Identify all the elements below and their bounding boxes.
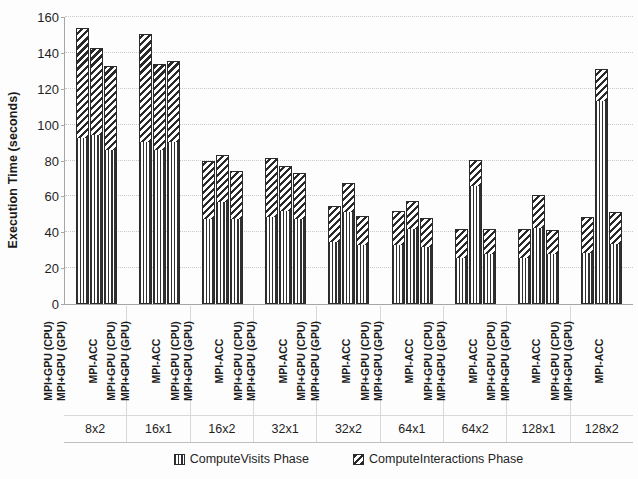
bar-group-16x2 <box>191 17 254 304</box>
y-tick-label-20: 20 <box>45 261 59 276</box>
bar-32x1-mpi-gpu-cpu-[interactable] <box>265 158 278 304</box>
bar-64x2-mpi-gpu-gpu-[interactable] <box>469 160 482 304</box>
bar-chart: Execution Time (seconds) 020406080100120… <box>0 0 638 479</box>
bar-group-64x1 <box>381 17 444 304</box>
bar-8x2-mpi-gpu-gpu-[interactable] <box>90 48 103 305</box>
segment-compute-visits <box>582 253 593 304</box>
series-label-text: MPI+GPU (CPU) <box>358 321 370 401</box>
segment-compute-visits <box>343 212 354 305</box>
category-axis: MPI+GPU (CPU)MPI+GPU (GPU)MPI-ACC8x2MPI+… <box>64 306 633 443</box>
segment-compute-interactions <box>470 161 481 186</box>
bar-128x2-mpi-acc[interactable] <box>609 212 622 304</box>
series-label-text: MPI-ACC <box>467 339 479 384</box>
x-tick-label-64x1: 64x1 <box>381 416 443 442</box>
bar-8x2-mpi-acc[interactable] <box>104 66 117 304</box>
segment-compute-visits <box>421 247 432 304</box>
bar-32x1-mpi-gpu-gpu-[interactable] <box>279 166 292 304</box>
y-tick-label-40: 40 <box>45 225 59 240</box>
series-label-text: MPI+GPU (CPU) <box>168 321 180 401</box>
bar-64x2-mpi-gpu-cpu-[interactable] <box>455 229 468 304</box>
segment-compute-visits <box>266 217 277 304</box>
series-label-text: MPI+GPU (CPU) <box>42 321 54 401</box>
segment-compute-interactions <box>357 217 368 245</box>
series-label-text: MPI+GPU (GPU) <box>562 321 574 401</box>
bar-group-8x2 <box>65 17 128 304</box>
series-label-text: MPI+GPU (GPU) <box>372 321 384 401</box>
segment-compute-visits <box>168 142 179 304</box>
segment-compute-visits <box>140 142 151 304</box>
series-label-text: MPI+GPU (CPU) <box>105 321 117 401</box>
y-tick-label-140: 140 <box>37 45 59 60</box>
bar-16x1-mpi-gpu-cpu-[interactable] <box>139 34 152 304</box>
segment-compute-interactions <box>329 207 340 242</box>
segment-compute-interactions <box>610 213 621 244</box>
series-label-text: MPI+GPU (CPU) <box>232 321 244 401</box>
legend-label-visits: ComputeVisits Phase <box>190 452 309 466</box>
series-label-text: MPI-ACC <box>277 339 289 384</box>
segment-compute-interactions <box>393 212 404 246</box>
y-tick-label-0: 0 <box>52 297 59 312</box>
bar-64x1-mpi-acc[interactable] <box>420 218 433 304</box>
category-group-128x2: MPI+GPU (CPU)MPI+GPU (GPU)MPI-ACC128x2 <box>571 306 633 442</box>
bar-16x2-mpi-acc[interactable] <box>230 171 243 304</box>
series-label-text: MPI-ACC <box>214 339 226 384</box>
y-axis-title-text: Execution Time (seconds) <box>6 91 20 248</box>
segment-compute-interactions <box>203 162 214 219</box>
segment-compute-interactions <box>421 219 432 247</box>
segment-compute-interactions <box>217 156 228 202</box>
chart-legend: ComputeVisits Phase ComputeInteractions … <box>64 452 633 466</box>
bar-64x2-mpi-acc[interactable] <box>483 229 496 304</box>
series-label-text: MPI+GPU (CPU) <box>548 321 560 401</box>
series-label-text: MPI-ACC <box>530 339 542 384</box>
bar-128x1-mpi-gpu-gpu-[interactable] <box>532 195 545 304</box>
series-label-mpi-gpu-cpu-: MPI+GPU (CPU) <box>391 309 404 413</box>
segment-compute-visits <box>407 229 418 304</box>
bar-32x1-mpi-acc[interactable] <box>293 173 306 304</box>
bar-32x2-mpi-gpu-gpu-[interactable] <box>342 183 355 304</box>
series-label-text: MPI+GPU (CPU) <box>422 321 434 401</box>
segment-compute-interactions <box>407 202 418 230</box>
segment-compute-visits <box>456 258 467 304</box>
bar-128x1-mpi-gpu-cpu-[interactable] <box>518 229 531 304</box>
series-label-mpi-gpu-cpu-: MPI+GPU (CPU) <box>265 309 278 413</box>
category-group-8x2: MPI+GPU (CPU)MPI+GPU (GPU)MPI-ACC8x2 <box>64 306 127 442</box>
bar-16x1-mpi-acc[interactable] <box>167 61 180 304</box>
segment-compute-interactions <box>168 62 179 142</box>
segment-compute-interactions <box>154 65 165 151</box>
y-tick-label-160: 160 <box>37 10 59 25</box>
bar-128x2-mpi-gpu-gpu-[interactable] <box>595 69 608 304</box>
segment-compute-interactions <box>519 230 530 258</box>
series-label-mpi-gpu-cpu-: MPI+GPU (CPU) <box>455 309 468 413</box>
series-label-mpi-gpu-cpu-: MPI+GPU (CPU) <box>581 309 594 413</box>
bar-8x2-mpi-gpu-cpu-[interactable] <box>76 28 89 304</box>
series-labels: MPI+GPU (CPU)MPI+GPU (GPU)MPI-ACC <box>444 306 506 416</box>
segment-compute-interactions <box>533 196 544 229</box>
bar-group-32x1 <box>254 17 317 304</box>
bar-64x1-mpi-gpu-cpu-[interactable] <box>392 211 405 304</box>
x-tick-label-32x2: 32x2 <box>317 416 379 442</box>
x-tick-label-32x1: 32x1 <box>254 416 316 442</box>
bar-32x2-mpi-acc[interactable] <box>356 216 369 304</box>
series-label-text: MPI+GPU (CPU) <box>295 321 307 401</box>
segment-compute-interactions <box>596 70 607 101</box>
series-label-text: MPI-ACC <box>87 339 99 384</box>
series-label-mpi-gpu-cpu-: MPI+GPU (CPU) <box>138 309 151 413</box>
bar-128x1-mpi-acc[interactable] <box>546 230 559 304</box>
bar-32x2-mpi-gpu-cpu-[interactable] <box>328 206 341 304</box>
bar-16x1-mpi-gpu-gpu-[interactable] <box>153 64 166 304</box>
segment-compute-interactions <box>547 231 558 254</box>
bar-group-128x2 <box>570 17 633 304</box>
series-label-text: MPI+GPU (GPU) <box>182 321 194 401</box>
legend-item-compute-visits: ComputeVisits Phase <box>174 452 309 466</box>
series-label-mpi-gpu-cpu-: MPI+GPU (CPU) <box>328 309 341 413</box>
bar-16x2-mpi-gpu-cpu-[interactable] <box>202 161 215 304</box>
legend-item-compute-interactions: ComputeInteractions Phase <box>353 452 523 466</box>
series-labels: MPI+GPU (CPU)MPI+GPU (GPU)MPI-ACC <box>571 306 633 416</box>
bar-128x2-mpi-gpu-cpu-[interactable] <box>581 217 594 304</box>
bar-16x2-mpi-gpu-gpu-[interactable] <box>216 155 229 304</box>
category-group-32x1: MPI+GPU (CPU)MPI+GPU (GPU)MPI-ACC32x1 <box>254 306 317 442</box>
bar-64x1-mpi-gpu-gpu-[interactable] <box>406 201 419 304</box>
series-label-text: MPI+GPU (GPU) <box>119 321 131 401</box>
series-label-text: MPI-ACC <box>594 339 606 384</box>
bars-layer <box>65 17 633 304</box>
